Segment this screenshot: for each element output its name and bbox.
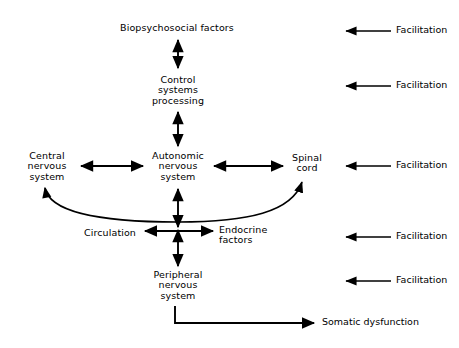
facilitation-label-4: Facilitation — [396, 231, 447, 241]
node-central-nervous-system: Central nervous system — [28, 151, 67, 182]
diagram-canvas: Biopsychosocial factors Control systems … — [0, 0, 459, 348]
node-control-systems-processing: Control systems processing — [152, 75, 204, 106]
facilitation-label-2: Facilitation — [396, 80, 447, 90]
node-peripheral-nervous-system: Peripheral nervous system — [153, 270, 202, 301]
facilitation-label-1: Facilitation — [396, 25, 447, 35]
node-somatic-dysfunction: Somatic dysfunction — [322, 317, 419, 327]
node-spinal-cord: Spinal cord — [292, 153, 322, 174]
connector-peripheral-somatic — [175, 306, 314, 323]
facilitation-label-3: Facilitation — [396, 160, 447, 170]
node-autonomic-nervous-system: Autonomic nervous system — [152, 151, 204, 182]
node-circulation: Circulation — [84, 228, 136, 238]
connector-arc-central-spinal — [45, 182, 302, 222]
facilitation-label-5: Facilitation — [396, 275, 447, 285]
connector-layer — [0, 0, 459, 348]
node-biopsychosocial-factors: Biopsychosocial factors — [120, 23, 234, 33]
node-endocrine-factors: Endocrine factors — [219, 225, 267, 246]
